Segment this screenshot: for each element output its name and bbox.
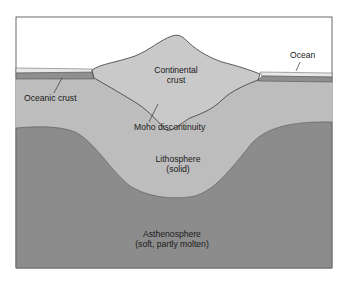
asthenosphere-label-1: Asthenosphere [143,229,201,239]
lithosphere-label-2: (solid) [166,164,190,174]
ocean-label: Ocean [290,50,316,60]
moho-label: Moho discontinuity [134,122,206,132]
continental-crust-label-1: Continental [154,65,198,75]
lithosphere-label-1: Lithosphere [156,154,201,164]
oceanic-crust-label: Oceanic crust [24,93,77,103]
lithosphere-diagram: Ocean Continental crust Oceanic crust Mo… [0,0,349,289]
oceanic-crust-left [16,72,94,79]
oceanic-crust-right [258,76,332,82]
asthenosphere-label-2: (soft, partly molten) [135,239,209,249]
continental-crust-label-2: crust [167,75,186,85]
